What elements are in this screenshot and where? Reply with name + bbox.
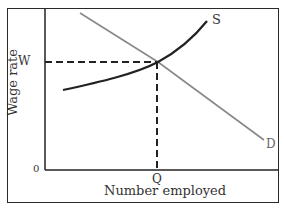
demand-curve — [80, 13, 264, 140]
y-tick-w: W — [18, 54, 30, 68]
x-axis-label: Number employed — [104, 183, 226, 198]
supply-curve-label: S — [212, 12, 221, 27]
x-tick-q: Q — [152, 172, 162, 186]
supply-curve — [63, 21, 207, 90]
demand-curve-label: D — [266, 137, 276, 151]
origin-label: 0 — [33, 163, 39, 174]
